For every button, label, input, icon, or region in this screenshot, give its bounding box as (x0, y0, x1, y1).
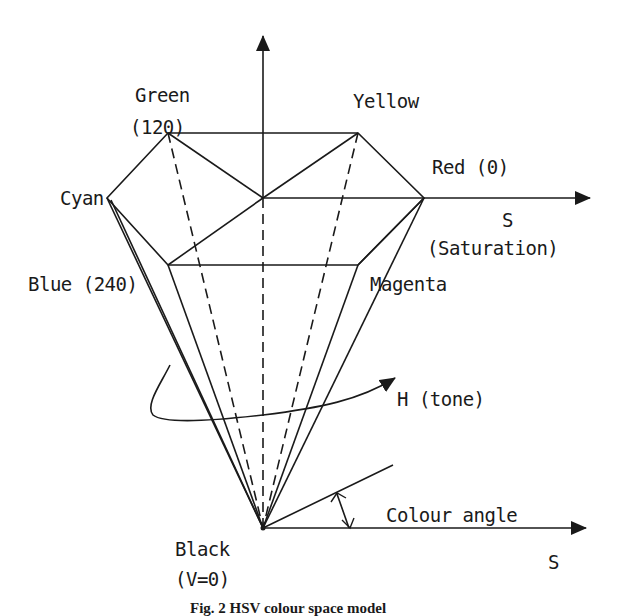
colour-angle-indicator (337, 494, 349, 528)
edge-red-black (263, 198, 424, 528)
label-green: Green (135, 86, 190, 105)
label-cyan: Cyan (60, 189, 104, 208)
black-apex-point (261, 526, 266, 531)
label-hue: H (tone) (397, 390, 485, 409)
edge-yellow-black-hidden (263, 133, 358, 528)
label-s-axis-bottom: S (548, 553, 559, 572)
label-yellow: Yellow (353, 92, 419, 111)
label-s-axis-top: S (502, 211, 513, 230)
label-blue: Blue (240) (28, 275, 137, 294)
edge-cyan-black-2 (111, 200, 263, 528)
label-saturation: (Saturation) (427, 239, 558, 258)
label-magenta: Magenta (370, 275, 447, 294)
label-green-value: (120) (130, 118, 185, 137)
label-black-value: (V=0) (175, 570, 230, 589)
edge-green-black-hidden (168, 133, 263, 528)
edge-red-magenta (358, 198, 424, 265)
label-black: Black (175, 540, 230, 559)
hue-rotation-arrow (151, 365, 395, 421)
edge-blue-black (168, 265, 263, 528)
label-colour-angle: Colour angle (386, 506, 517, 525)
center-to-blue (168, 198, 263, 265)
label-red: Red (0) (432, 158, 509, 177)
center-to-yellow (263, 133, 358, 198)
figure-caption: Fig. 2 HSV colour space model (190, 601, 386, 616)
center-to-green (168, 133, 263, 198)
